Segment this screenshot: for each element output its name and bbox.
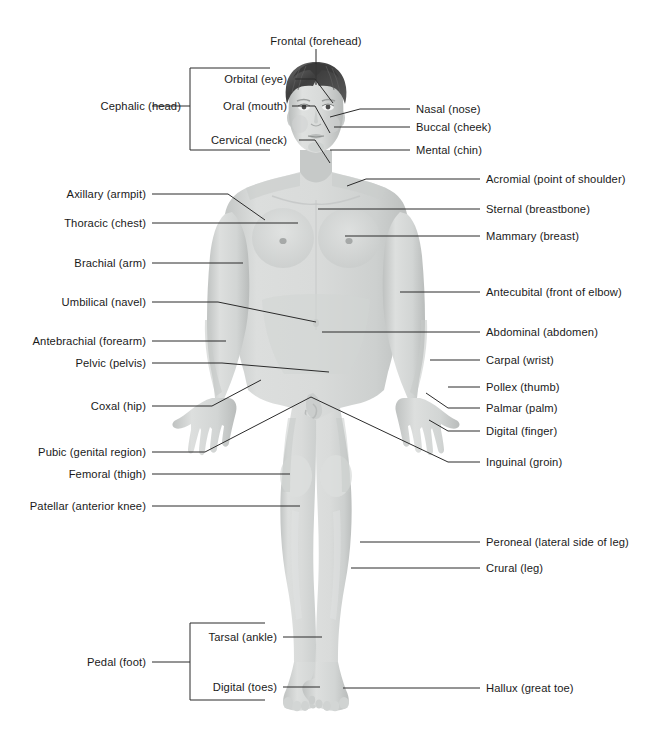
label-oral: Oral (mouth) [223,100,287,113]
label-sternal: Sternal (breastbone) [486,203,590,216]
leader-line-acromial [347,179,480,186]
right-hand [395,398,459,455]
anatomy-diagram: Frontal (forehead)Cephalic (head)Axillar… [0,0,648,735]
label-carpal: Carpal (wrist) [486,354,554,367]
label-digital_toes: Digital (toes) [213,681,277,694]
label-patellar: Patellar (anterior knee) [30,500,146,513]
label-mental: Mental (chin) [416,144,482,157]
leader-line-oral [292,106,330,133]
label-pedal: Pedal (foot) [87,656,146,669]
label-mammary: Mammary (breast) [486,230,579,243]
label-abdominal: Abdominal (abdomen) [486,326,598,339]
leader-line-coxal [152,380,261,406]
label-inguinal: Inguinal (groin) [486,456,562,469]
label-orbital: Orbital (eye) [224,73,287,86]
leader-line-digital_fing [429,420,480,431]
left-toes [283,696,323,711]
label-cervical: Cervical (neck) [211,134,287,147]
label-buccal: Buccal (cheek) [416,121,491,134]
label-peroneal: Peroneal (lateral side of leg) [486,536,629,549]
label-frontal: Frontal (forehead) [270,35,361,48]
label-axillary: Axillary (armpit) [67,188,146,201]
label-tarsal: Tarsal (ankle) [208,631,277,644]
label-crural: Crural (leg) [486,562,543,575]
label-palmar: Palmar (palm) [486,402,558,415]
leader-line-cervical [299,140,330,163]
leader-line-orbital [295,79,333,103]
bracket-lines [190,68,270,700]
label-antecubital: Antecubital (front of elbow) [486,286,622,299]
label-nasal: Nasal (nose) [416,103,481,116]
head [286,62,347,153]
label-digital_fing: Digital (finger) [486,425,557,438]
label-cephalic: Cephalic (head) [101,100,181,113]
leader-line-palmar [426,393,480,408]
body-figure [172,62,459,711]
leader-line-inguinal [311,397,480,462]
leader-line-pelvic [152,363,329,372]
leader-line-umbilical [152,302,316,322]
label-pollex: Pollex (thumb) [486,381,560,394]
label-femoral: Femoral (thigh) [69,468,146,481]
leader-line-pubic [152,397,311,452]
label-brachial: Brachial (arm) [74,257,146,270]
label-umbilical: Umbilical (navel) [62,296,146,309]
leader-line-nasal [330,109,410,117]
label-coxal: Coxal (hip) [91,400,146,413]
label-hallux: Hallux (great toe) [486,682,574,695]
label-pubic: Pubic (genital region) [38,446,146,459]
right-toes [309,696,349,711]
left-hand [172,398,236,455]
label-pelvic: Pelvic (pelvis) [75,357,146,370]
label-thoracic: Thoracic (chest) [64,217,146,230]
leader-line-axillary [152,194,265,220]
label-antebrachial: Antebrachial (forearm) [33,335,147,348]
label-acromial: Acromial (point of shoulder) [486,173,626,186]
